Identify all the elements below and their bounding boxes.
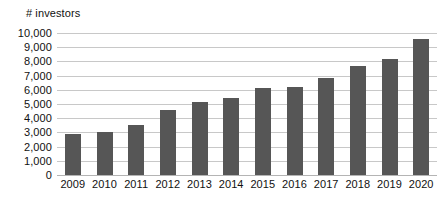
- y-axis-tick-label: 6,000: [0, 84, 52, 95]
- y-axis-tick-label: 3,000: [0, 127, 52, 138]
- y-axis-tick-labels: 01,0002,0003,0004,0005,0006,0007,0008,00…: [0, 33, 52, 175]
- y-axis-tick-label: 0: [0, 170, 52, 181]
- gridline: [57, 175, 437, 176]
- bar: [223, 98, 239, 175]
- bar: [350, 66, 366, 175]
- bar: [97, 132, 113, 175]
- bar: [128, 125, 144, 175]
- x-axis-tick-labels: 2009201020112012201320142015201620172018…: [57, 178, 437, 194]
- bar-chart: # investors 01,0002,0003,0004,0005,0006,…: [0, 0, 442, 201]
- y-axis-tick-label: 7,000: [0, 70, 52, 81]
- y-axis-tick-label: 5,000: [0, 99, 52, 110]
- bar: [413, 39, 429, 175]
- y-axis-tick-label: 1,000: [0, 155, 52, 166]
- y-axis-tick-label: 4,000: [0, 113, 52, 124]
- bar: [65, 134, 81, 175]
- bar: [192, 102, 208, 175]
- bar: [382, 59, 398, 175]
- bar: [287, 87, 303, 175]
- plot-area: [57, 33, 437, 175]
- y-axis-tick-label: 2,000: [0, 141, 52, 152]
- y-axis-tick-label: 10,000: [0, 28, 52, 39]
- y-axis-tick-label: 8,000: [0, 56, 52, 67]
- x-axis-tick-label: 2020: [401, 178, 441, 191]
- bar: [318, 78, 334, 175]
- y-axis-title: # investors: [26, 7, 80, 20]
- bar-series: [57, 33, 437, 175]
- bar: [160, 110, 176, 175]
- y-axis-tick-label: 9,000: [0, 42, 52, 53]
- bar: [255, 88, 271, 175]
